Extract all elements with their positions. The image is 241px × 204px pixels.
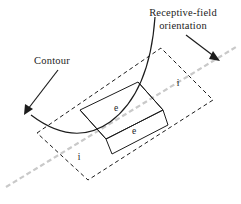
contour-arrow-head [24, 104, 33, 115]
region-label-excitatory-lower: e [132, 126, 136, 136]
bar-divider-left [80, 110, 106, 139]
excitatory-region-lower [106, 110, 168, 154]
orientation-axis [6, 47, 236, 187]
callout-receptive-field-orientation-line1: Receptive-field [149, 7, 217, 18]
contour-callout-arrow [28, 70, 58, 109]
orientation-arrow-head [209, 51, 220, 61]
orientation-callout-arrow [186, 35, 215, 57]
region-label-excitatory-upper: e [114, 103, 118, 113]
callout-receptive-field-orientation-line2: orientation [159, 20, 207, 31]
region-label-inhibitory-left: i [78, 152, 81, 162]
bar-divider-right [138, 82, 163, 110]
figure-canvas: Receptive-field orientation Contour i i … [0, 0, 241, 204]
region-label-inhibitory-right: i [177, 78, 180, 88]
callout-contour-label: Contour [34, 55, 70, 66]
contour-arc [31, 17, 155, 133]
